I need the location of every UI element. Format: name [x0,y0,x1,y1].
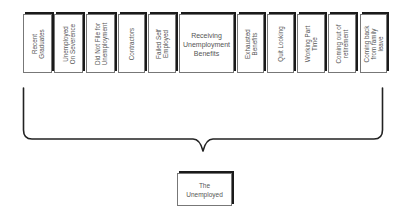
result-label: TheUnemployed [178,181,231,199]
result-box-the-unemployed: TheUnemployed [177,173,232,206]
